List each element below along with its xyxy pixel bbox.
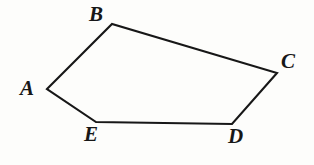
geometry-figure: A B C D E xyxy=(0,0,314,165)
pentagon-outline-path xyxy=(47,24,277,124)
vertex-label-e: E xyxy=(84,124,98,145)
vertex-label-c: C xyxy=(281,51,295,72)
vertex-label-d: D xyxy=(228,126,243,147)
vertex-label-a: A xyxy=(20,78,34,99)
vertex-label-b: B xyxy=(89,4,103,25)
pentagon-shape xyxy=(0,0,314,165)
